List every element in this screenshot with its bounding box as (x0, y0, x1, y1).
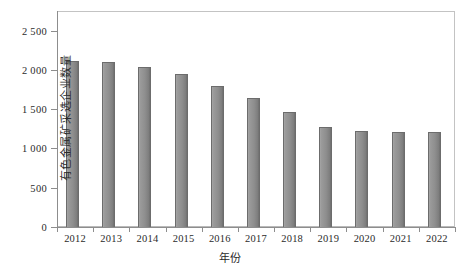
x-axis-tick-label: 2019 (317, 233, 339, 244)
bar-2018 (283, 112, 296, 227)
x-axis-tick-label: 2014 (137, 233, 159, 244)
x-axis-title: 年份 (0, 249, 460, 265)
y-axis-tick (51, 148, 57, 149)
x-axis-line (57, 227, 455, 228)
x-axis-tick (383, 227, 384, 232)
x-axis-tick-label: 2021 (390, 233, 412, 244)
bar-2020 (355, 131, 368, 227)
bar-2021 (392, 132, 405, 227)
x-axis-tick (455, 227, 456, 232)
x-axis-tick (274, 227, 275, 232)
x-axis-tick-label: 2020 (354, 233, 376, 244)
y-axis-tick-label: 2 500 (22, 25, 47, 36)
bar-chart: 05001 0001 5002 0002 500 201220132014201… (0, 0, 460, 272)
y-axis-tick-label: 500 (30, 182, 47, 193)
y-axis-tick (51, 70, 57, 71)
bar-2019 (319, 127, 332, 227)
x-axis-tick (93, 227, 94, 232)
y-axis-tick (51, 109, 57, 110)
bar-2014 (138, 67, 151, 227)
y-axis-tick (51, 188, 57, 189)
bar-2016 (211, 86, 224, 227)
y-axis-tick-label: 1 000 (22, 143, 47, 154)
bar-2013 (102, 62, 115, 227)
x-axis-tick-label: 2018 (281, 233, 303, 244)
x-axis-tick (238, 227, 239, 232)
x-axis-tick (166, 227, 167, 232)
x-axis-tick (310, 227, 311, 232)
x-axis-tick-label: 2013 (100, 233, 122, 244)
x-axis-tick-label: 2022 (426, 233, 448, 244)
x-axis-tick (346, 227, 347, 232)
y-axis-tick-label: 0 (41, 222, 47, 233)
y-axis-tick-label: 2 000 (22, 64, 47, 75)
x-axis-tick (129, 227, 130, 232)
x-axis-tick (57, 227, 58, 232)
y-axis-tick-label: 1 500 (22, 104, 47, 115)
x-axis-tick-label: 2017 (245, 233, 267, 244)
bar-2017 (247, 98, 260, 227)
x-axis-tick-label: 2012 (64, 233, 86, 244)
x-axis-tick (419, 227, 420, 232)
x-axis-tick (202, 227, 203, 232)
y-axis-title: 有色金属矿采选企业数量 (57, 55, 73, 182)
y-axis-tick (51, 31, 57, 32)
bar-2015 (175, 74, 188, 227)
x-axis-tick-label: 2016 (209, 233, 231, 244)
bar-2022 (428, 132, 441, 227)
x-axis-tick-label: 2015 (173, 233, 195, 244)
